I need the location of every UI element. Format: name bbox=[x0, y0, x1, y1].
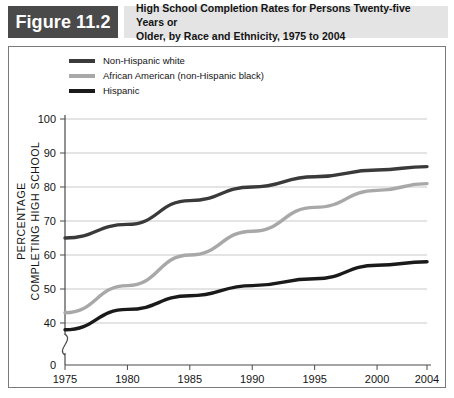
y-tick-label: 70 bbox=[44, 215, 56, 227]
x-tick-label: 1995 bbox=[302, 373, 326, 385]
line-chart: 0405060708090100 19751980198519901995200… bbox=[9, 47, 447, 389]
axis-titles: YEARPERCENTAGECOMPLETING HIGH SCHOOL bbox=[15, 141, 262, 389]
x-tick-label: 1985 bbox=[178, 373, 202, 385]
figure-title-line-1: High School Completion Rates for Persons… bbox=[136, 2, 411, 28]
x-tick-label: 1975 bbox=[53, 373, 77, 385]
figure-body: Non-Hispanic white African American (non… bbox=[8, 46, 446, 388]
x-tick-label: 1980 bbox=[115, 373, 139, 385]
y-tick-label: 50 bbox=[44, 283, 56, 295]
gridlines bbox=[65, 119, 427, 323]
y-tick-label: 40 bbox=[44, 317, 56, 329]
series-line bbox=[65, 184, 427, 313]
y-tick-label: 0 bbox=[50, 359, 56, 371]
chart-plot-area: 0405060708090100 19751980198519901995200… bbox=[9, 47, 447, 389]
series-line bbox=[65, 262, 427, 330]
x-tick-label: 1990 bbox=[240, 373, 264, 385]
y-axis-ticks: 0405060708090100 bbox=[38, 113, 65, 371]
y-axis-title-line-2: COMPLETING HIGH SCHOOL bbox=[29, 141, 41, 300]
x-axis-ticks: 1975198019851990199520002004 bbox=[53, 365, 439, 385]
axis-break-symbol bbox=[62, 334, 67, 355]
figure-number-badge: Figure 11.2 bbox=[8, 6, 118, 38]
data-series bbox=[65, 167, 427, 330]
y-tick-label: 90 bbox=[44, 147, 56, 159]
y-axis-title-line-1: PERCENTAGE bbox=[15, 182, 27, 260]
y-tick-label: 80 bbox=[44, 181, 56, 193]
x-tick-label: 2000 bbox=[365, 373, 389, 385]
figure-header: Figure 11.2 High School Completion Rates… bbox=[0, 0, 454, 44]
y-tick-label: 100 bbox=[38, 113, 56, 125]
figure-title-line-2: Older, by Race and Ethnicity, 1975 to 20… bbox=[136, 30, 345, 42]
figure-title-bar: High School Completion Rates for Persons… bbox=[124, 6, 448, 38]
figure-title: High School Completion Rates for Persons… bbox=[136, 1, 438, 44]
series-line bbox=[65, 167, 427, 238]
x-tick-label: 2004 bbox=[415, 373, 439, 385]
y-tick-label: 60 bbox=[44, 249, 56, 261]
